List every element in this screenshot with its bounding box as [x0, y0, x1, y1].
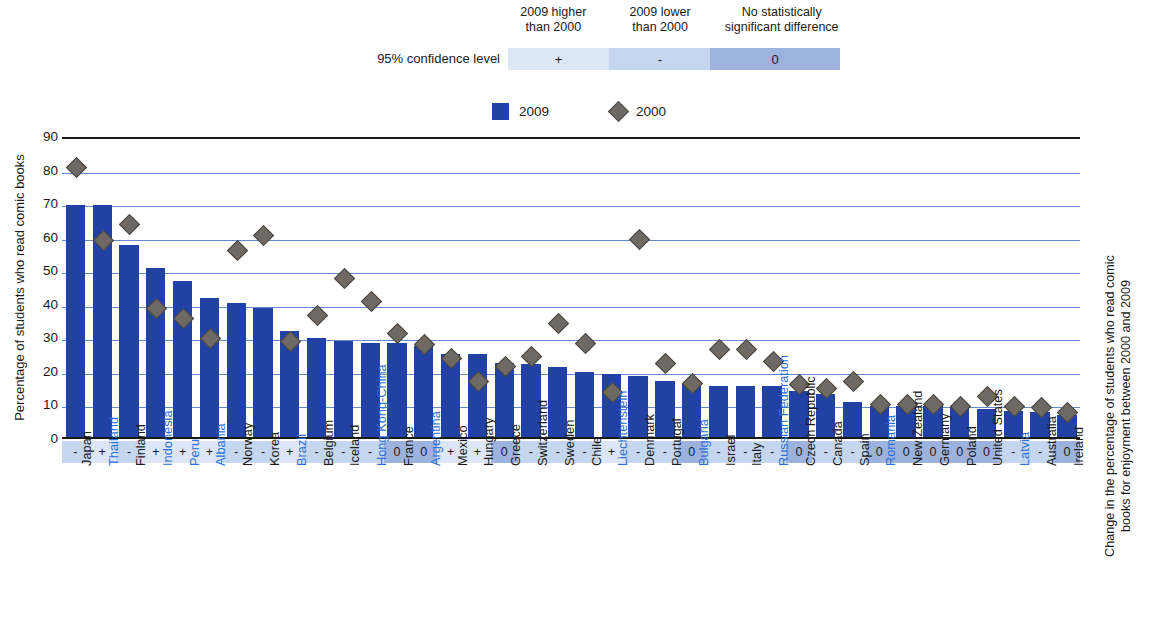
country-label-wrap: Australia	[1027, 466, 1054, 606]
bar-column	[652, 139, 679, 437]
country-label: Poland	[965, 426, 978, 466]
country-label-wrap: Latvia	[1000, 466, 1027, 606]
y-axis-tick-label: 20	[43, 366, 58, 378]
diamond-2000	[655, 353, 676, 374]
country-label-wrap: Romania	[866, 466, 893, 606]
country-label-wrap: Hungary	[464, 466, 491, 606]
bar-column	[116, 139, 143, 437]
country-label-wrap: Hong Kong-China	[357, 466, 384, 606]
bar-column	[491, 139, 518, 437]
country-label: Finland	[134, 424, 147, 466]
country-label: Peru	[188, 439, 201, 466]
bar-2009	[253, 308, 272, 437]
bar-2009	[66, 205, 85, 437]
country-label-wrap: Peru	[169, 466, 196, 606]
bar-column	[571, 139, 598, 437]
y-axis-tick-label: 10	[43, 399, 58, 411]
confidence-header-higher: 2009 higherthan 2000	[500, 4, 607, 44]
bar-column	[437, 139, 464, 437]
country-label: Norway	[241, 423, 254, 466]
bar-2009	[843, 402, 862, 437]
country-label: Greece	[509, 424, 522, 466]
country-label: United States	[991, 389, 1004, 466]
diamond-2000	[307, 305, 328, 326]
diamond-2000	[66, 157, 87, 178]
y-axis-tick-label: 50	[43, 265, 58, 277]
country-label-wrap: United States	[973, 466, 1000, 606]
country-label-wrap: Russian Federation	[759, 466, 786, 606]
diamond-2000	[629, 228, 650, 249]
country-label: Hong Kong-China	[375, 364, 388, 466]
country-label-wrap: Bulgaria	[678, 466, 705, 606]
diamond-2000	[119, 213, 140, 234]
country-label: Hungary	[482, 418, 495, 466]
diamond-2000	[575, 333, 596, 354]
country-label-wrap: Switzerland	[518, 466, 545, 606]
country-label: Korea	[268, 432, 281, 466]
confidence-legend-headers: 2009 higherthan 2000 2009 lowerthan 2000…	[500, 4, 850, 44]
bar-2009	[736, 386, 755, 437]
y-axis-tick-label: 30	[43, 332, 58, 344]
diamond-2000	[361, 291, 382, 312]
bar-column	[732, 139, 759, 437]
country-label: Thailand	[107, 417, 120, 466]
country-label: Czech Republic	[804, 376, 817, 466]
country-label-wrap: Greece	[491, 466, 518, 606]
country-label-wrap: New Zealand	[893, 466, 920, 606]
country-label: Japan	[80, 431, 93, 466]
y-axis-tick-label: 90	[43, 131, 58, 143]
bar-column	[1053, 139, 1080, 437]
country-label-wrap: Iceland	[330, 466, 357, 606]
country-label: Israel	[724, 435, 737, 466]
diamond-2000	[387, 323, 408, 344]
y-axis-title-right: Change in the percentage of students who…	[1102, 241, 1134, 571]
country-label: Chile	[590, 437, 603, 466]
bar-2009	[173, 281, 192, 437]
y-axis-tick-label: 0	[50, 433, 58, 445]
bar-column	[839, 139, 866, 437]
confidence-cell-plus: +	[508, 48, 609, 70]
bar-2009	[227, 303, 246, 437]
country-label-wrap: Ireland	[1053, 466, 1080, 606]
diamond-marker-icon	[608, 100, 629, 121]
bar-column	[544, 139, 571, 437]
bar-column	[62, 139, 89, 437]
bar-column	[303, 139, 330, 437]
country-label: Sweden	[563, 420, 576, 466]
country-label: Albania	[214, 423, 227, 466]
country-label-wrap: Germany	[920, 466, 947, 606]
legend-label-2000: 2000	[636, 104, 666, 119]
country-label: Argentina	[429, 411, 442, 466]
confidence-header-lower: 2009 lowerthan 2000	[607, 4, 714, 44]
confidence-legend: 2009 higherthan 2000 2009 lowerthan 2000…	[330, 4, 850, 74]
country-label: Russian Federation	[777, 355, 790, 466]
country-label-wrap: Japan	[62, 466, 89, 606]
bars-container	[62, 139, 1080, 437]
y-axis-tick-label: 40	[43, 299, 58, 311]
confidence-level-label: 95% confidence level	[330, 48, 508, 70]
y-axis-tick-label: 70	[43, 198, 58, 210]
country-label: Spain	[858, 433, 871, 466]
country-label-wrap: Czech Republic	[786, 466, 813, 606]
country-label-wrap: Brazil	[276, 466, 303, 606]
diamond-2000	[843, 371, 864, 392]
country-label-wrap: Thailand	[89, 466, 116, 606]
country-label: Latvia	[1018, 432, 1031, 466]
bar-column	[169, 139, 196, 437]
bar-column	[330, 139, 357, 437]
country-label-wrap: Liechtenstein	[598, 466, 625, 606]
diamond-2000	[227, 240, 248, 261]
bar-2009	[119, 245, 138, 437]
diamond-2000	[736, 339, 757, 360]
legend-item-2009: 2009	[492, 103, 549, 120]
diamond-2000	[334, 268, 355, 289]
country-label: Ireland	[1072, 427, 1085, 466]
legend-label-2009: 2009	[519, 104, 549, 119]
bar-column	[464, 139, 491, 437]
country-label-wrap: Indonesia	[142, 466, 169, 606]
country-label: France	[402, 426, 415, 466]
country-label: Romania	[884, 415, 897, 466]
confidence-cell-zero: 0	[710, 48, 840, 70]
y-axis-tick-label: 60	[43, 232, 58, 244]
bar-column	[705, 139, 732, 437]
